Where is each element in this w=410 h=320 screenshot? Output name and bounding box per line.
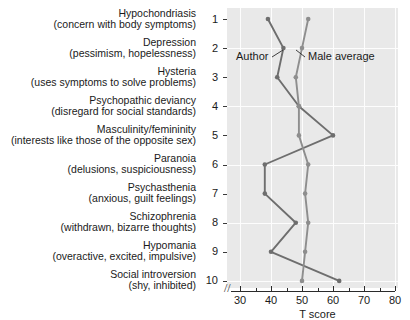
- data-point: [297, 104, 302, 109]
- scale-label: Hysteria(uses symptoms to solve problems…: [0, 66, 196, 88]
- x-axis-tick: [302, 286, 303, 291]
- x-axis-tick: [271, 286, 272, 291]
- row-number: 4: [200, 101, 218, 112]
- x-axis-minor-tick: [349, 288, 350, 291]
- data-point: [306, 220, 311, 225]
- data-point: [266, 17, 271, 22]
- row-number: 3: [200, 72, 218, 83]
- scale-description: (interests like those of the opposite se…: [0, 135, 196, 146]
- row-number: 5: [200, 130, 218, 141]
- scale-description: (overactive, excited, impulsive): [0, 251, 196, 262]
- x-axis-minor-tick: [287, 288, 288, 291]
- axis-break-marker: //: [224, 283, 231, 293]
- data-point: [331, 133, 336, 138]
- x-axis-tick-label: 60: [320, 294, 346, 306]
- y-axis-tick: [223, 165, 227, 166]
- scale-description: (withdrawn, bizarre thoughts): [0, 222, 196, 233]
- series-label-male-average: Male average: [308, 50, 375, 62]
- x-axis-tick-label: 50: [289, 294, 315, 306]
- data-point: [275, 75, 280, 80]
- series-label-author: Author: [236, 50, 268, 62]
- x-axis-line: [231, 291, 395, 292]
- scale-description: (uses symptoms to solve problems): [0, 77, 196, 88]
- x-axis-minor-tick: [380, 288, 381, 291]
- scale-description: (pessimism, hopelessness): [0, 48, 196, 59]
- row-number: 2: [200, 43, 218, 54]
- row-number: 9: [200, 246, 218, 257]
- y-axis-tick: [223, 106, 227, 107]
- scale-label: Psychasthenia(anxious, guilt feelings): [0, 182, 196, 204]
- row-number: 10: [200, 275, 218, 286]
- x-axis-tick-label: 40: [258, 294, 284, 306]
- scale-label: Hypochondriasis(concern with body sympto…: [0, 8, 196, 30]
- x-axis-title: T score: [258, 308, 378, 320]
- data-point: [300, 46, 305, 51]
- y-axis-tick: [223, 135, 227, 136]
- y-axis-tick: [223, 19, 227, 20]
- row-number: 8: [200, 217, 218, 228]
- x-axis-tick: [240, 286, 241, 291]
- data-point: [294, 220, 299, 225]
- y-axis-tick: [223, 48, 227, 49]
- data-point: [297, 133, 302, 138]
- data-point: [269, 250, 274, 255]
- scale-label: Paranoia(delusions, suspiciousness): [0, 153, 196, 175]
- row-number: 1: [200, 14, 218, 25]
- data-point: [300, 279, 305, 284]
- row-number: 6: [200, 159, 218, 170]
- y-axis-tick: [223, 223, 227, 224]
- data-point: [303, 191, 308, 196]
- y-axis-tick: [223, 77, 227, 78]
- data-point: [294, 75, 299, 80]
- mmpi-profile-chart: Hypochondriasis(concern with body sympto…: [0, 0, 410, 320]
- data-point: [337, 279, 342, 284]
- scale-label-list: Hypochondriasis(concern with body sympto…: [0, 0, 196, 300]
- x-axis-tick: [333, 286, 334, 291]
- scale-label: Hypomania(overactive, excited, impulsive…: [0, 240, 196, 262]
- data-point: [263, 162, 268, 167]
- data-point: [303, 250, 308, 255]
- data-point: [281, 46, 286, 51]
- scale-description: (disregard for social standards): [0, 106, 196, 117]
- scale-label: Depression(pessimism, hopelessness): [0, 37, 196, 59]
- scale-description: (anxious, guilt feelings): [0, 193, 196, 204]
- scale-description: (delusions, suspiciousness): [0, 164, 196, 175]
- x-axis-tick-label: 70: [351, 294, 377, 306]
- scale-name: Depression: [0, 37, 196, 48]
- x-axis-tick-label: 80: [382, 294, 408, 306]
- row-number: 7: [200, 188, 218, 199]
- scale-label: Psychopathic deviancy(disregard for soci…: [0, 95, 196, 117]
- x-axis-tick-label: 30: [227, 294, 253, 306]
- x-axis-tick: [395, 286, 396, 291]
- x-axis-tick: [364, 286, 365, 291]
- scale-name: Hypochondriasis: [0, 8, 196, 19]
- y-axis-tick: [223, 252, 227, 253]
- x-axis-minor-tick: [318, 288, 319, 291]
- x-axis-minor-tick: [256, 288, 257, 291]
- y-axis-tick: [223, 194, 227, 195]
- scale-label: Masculinity/femininity(interests like th…: [0, 124, 196, 146]
- scale-description: (shy, inhibited): [0, 280, 196, 291]
- scale-label: Schizophrenia(withdrawn, bizarre thought…: [0, 211, 196, 233]
- data-point: [263, 191, 268, 196]
- scale-label: Social introversion(shy, inhibited): [0, 269, 196, 291]
- scale-description: (concern with body symptoms): [0, 19, 196, 30]
- data-point: [306, 17, 311, 22]
- data-point: [306, 162, 311, 167]
